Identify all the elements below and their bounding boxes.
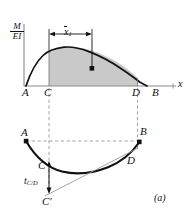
beam-point-a-dot bbox=[24, 139, 29, 144]
m-ei-denominator: EI bbox=[10, 31, 24, 41]
beam-point-b-dot bbox=[137, 140, 142, 145]
figure-canvas bbox=[0, 0, 192, 224]
c-prime-mark: ′ bbox=[49, 195, 51, 207]
figure-caption: (a) bbox=[154, 193, 166, 203]
x-axis-label: x bbox=[178, 79, 182, 89]
beam-label-c: C bbox=[38, 160, 45, 171]
deviation-subscript: C/D bbox=[27, 179, 38, 186]
upper-label-b: B bbox=[152, 87, 159, 98]
moment-area-figure: M EI x1 A C D B x A B C D tC/D C′ (a) bbox=[0, 0, 192, 224]
beam-label-b: B bbox=[140, 126, 147, 137]
tangent-line-at-d bbox=[45, 148, 138, 196]
xbar1-label: x1 bbox=[64, 27, 72, 37]
beam-label-a: A bbox=[21, 127, 28, 138]
m-ei-numerator: M bbox=[10, 22, 24, 31]
deviation-label: tC/D bbox=[24, 176, 38, 186]
m-ei-axis-label: M EI bbox=[10, 22, 24, 42]
beam-label-d: D bbox=[127, 155, 135, 166]
upper-label-d: D bbox=[132, 87, 140, 98]
xbar1-right-arrowhead bbox=[86, 32, 92, 37]
centroid-dot bbox=[90, 66, 95, 71]
deviation-top-tick bbox=[47, 161, 51, 166]
xbar1-subscript: 1 bbox=[68, 30, 71, 37]
xbar1-symbol: x bbox=[64, 26, 68, 37]
upper-label-a: A bbox=[22, 87, 29, 98]
xbar1-left-arrowhead bbox=[49, 32, 55, 37]
beam-label-c-prime: C′ bbox=[42, 196, 52, 207]
upper-label-c: C bbox=[44, 87, 51, 98]
